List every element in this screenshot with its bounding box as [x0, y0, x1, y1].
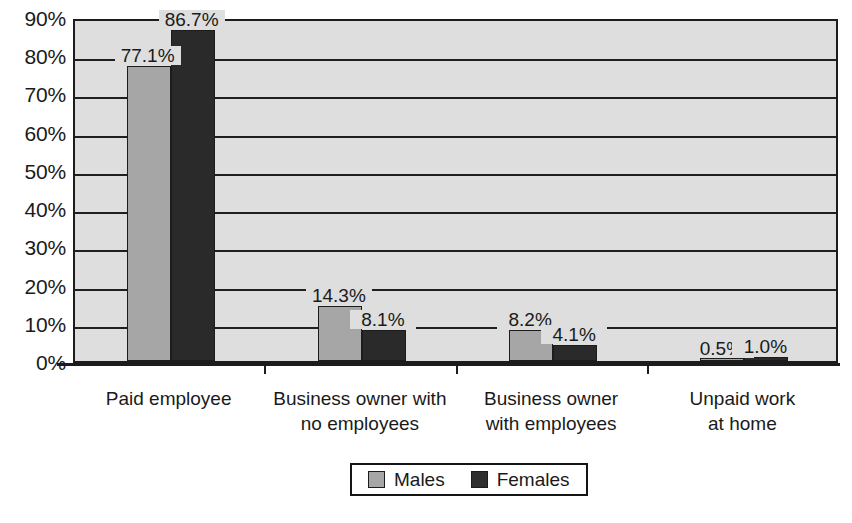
y-axis-tick-label: 50%: [0, 161, 66, 182]
bar-males-0: [127, 66, 171, 361]
plot-area: [73, 19, 838, 363]
y-axis-tick-label: 80%: [0, 46, 66, 67]
y-axis-tick-label: 70%: [0, 84, 66, 105]
legend-swatch-icon: [471, 471, 488, 488]
bar-females-0: [171, 30, 215, 361]
y-axis-tick-label: 20%: [0, 276, 66, 297]
x-axis-tick: [647, 363, 649, 374]
x-axis-category-labels: Paid employeeBusiness owner withno emplo…: [73, 386, 838, 448]
y-axis-tick-label: 10%: [0, 314, 66, 335]
legend-label: Females: [497, 470, 570, 489]
category-label: Paid employee: [73, 386, 264, 411]
y-axis-tick-label: 40%: [0, 199, 66, 220]
y-axis-tick-label: 60%: [0, 123, 66, 144]
category-label: Unpaid workat home: [647, 386, 838, 436]
y-axis: 90%80%70%60%50%40%30%20%10%0%: [0, 0, 66, 380]
bars-layer: [75, 21, 836, 361]
legend-item-males[interactable]: Males: [368, 470, 445, 489]
category-label: Business ownerwith employees: [456, 386, 647, 436]
category-label-line: Business owner: [456, 386, 647, 411]
category-label: Business owner withno employees: [264, 386, 455, 436]
bar-females-2: [553, 345, 597, 361]
y-axis-tick-label: 90%: [0, 8, 66, 29]
category-label-line: Paid employee: [73, 386, 264, 411]
legend-swatch-icon: [368, 471, 385, 488]
category-label-line: with employees: [456, 411, 647, 436]
x-axis-tick: [456, 363, 458, 374]
data-label: 77.1%: [115, 46, 181, 65]
legend: MalesFemales: [350, 463, 588, 496]
legend-label: Males: [394, 470, 445, 489]
data-label: 14.3%: [306, 286, 372, 305]
category-label-line: Business owner with: [264, 386, 455, 411]
data-label: 1.0%: [732, 337, 798, 356]
category-label-line: at home: [647, 411, 838, 436]
y-axis-tick-label: 30%: [0, 237, 66, 258]
bar-females-1: [362, 330, 406, 361]
data-label: 4.1%: [541, 325, 607, 344]
category-label-line: no employees: [264, 411, 455, 436]
category-label-line: Unpaid work: [647, 386, 838, 411]
legend-item-females[interactable]: Females: [471, 470, 570, 489]
data-label: 86.7%: [159, 10, 225, 29]
data-label: 8.1%: [350, 310, 416, 329]
bar-chart: 90%80%70%60%50%40%30%20%10%0% 77.1%86.7%…: [0, 0, 852, 523]
x-axis-tick: [264, 363, 266, 374]
x-axis-line: [57, 363, 840, 366]
